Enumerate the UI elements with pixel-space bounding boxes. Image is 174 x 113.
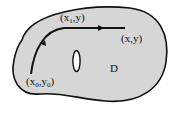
region-diagram: (x1,y) (x,y) (x0,y0) D bbox=[0, 0, 174, 113]
end-point-label: (x,y) bbox=[121, 32, 142, 45]
corner-point-label: (x1,y) bbox=[60, 11, 85, 25]
region-label: D bbox=[110, 62, 118, 74]
hole bbox=[73, 51, 80, 72]
start-point-label: (x0,y0) bbox=[26, 75, 54, 89]
